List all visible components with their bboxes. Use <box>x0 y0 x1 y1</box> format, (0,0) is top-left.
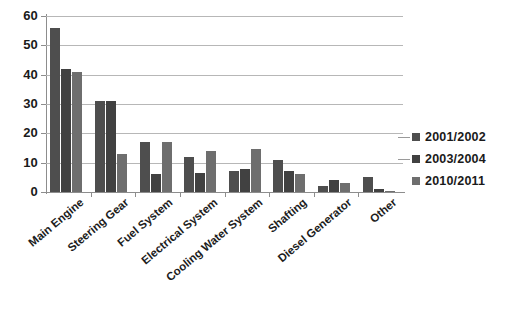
y-axis-tick-label: 10 <box>23 155 38 170</box>
legend-label: 2003/2004 <box>425 152 486 166</box>
x-axis-labels: Main EngineSteering GearFuel SystemElect… <box>46 196 406 316</box>
bar-group <box>358 16 403 192</box>
x-axis-tick <box>269 192 270 197</box>
bar <box>385 191 395 192</box>
bar <box>284 171 294 192</box>
bar <box>151 174 161 192</box>
x-axis-tick <box>358 192 359 197</box>
bar <box>273 160 283 192</box>
legend-leader-line <box>398 159 410 160</box>
legend-swatch <box>412 133 420 141</box>
bar <box>340 183 350 192</box>
x-axis-tick <box>91 192 92 197</box>
legend-swatch <box>412 177 420 185</box>
bar <box>251 149 261 192</box>
bar-group <box>135 16 180 192</box>
bar <box>117 154 127 192</box>
x-axis-tick <box>180 192 181 197</box>
bar <box>295 174 305 192</box>
bar-group <box>91 16 136 192</box>
bar <box>240 169 250 192</box>
x-axis-label: Electrical System <box>139 196 220 266</box>
bar <box>162 142 172 192</box>
y-axis-tick-label: 30 <box>23 96 38 111</box>
bar <box>374 189 384 192</box>
x-axis-line <box>46 192 405 193</box>
bar <box>184 157 194 192</box>
bar <box>195 173 205 192</box>
y-axis-tick-label: 40 <box>23 67 38 82</box>
bar <box>95 101 105 192</box>
x-axis-tick <box>135 192 136 197</box>
bar <box>50 28 60 192</box>
x-axis-label: Shafting <box>266 196 309 235</box>
legend-swatch <box>412 155 420 163</box>
bar <box>106 101 116 192</box>
legend-label: 2001/2002 <box>425 130 486 144</box>
bar <box>61 69 71 192</box>
bar-group <box>46 16 91 192</box>
x-axis-label: Other <box>367 196 398 225</box>
bar <box>229 171 239 192</box>
bar-group <box>225 16 270 192</box>
bar-group <box>269 16 314 192</box>
bar <box>206 151 216 192</box>
bar <box>140 142 150 192</box>
bar-group <box>314 16 359 192</box>
y-axis-tick-label: 50 <box>23 38 38 53</box>
y-axis-tick-label: 20 <box>23 126 38 141</box>
chart-legend: 2001/20022003/20042010/2011 <box>412 126 486 192</box>
y-axis-tick-label: 60 <box>23 8 38 23</box>
legend-item[interactable]: 2001/2002 <box>412 126 486 148</box>
y-axis-tick <box>41 192 46 193</box>
bar-chart: 0102030405060 Main EngineSteering GearFu… <box>0 0 525 321</box>
legend-item[interactable]: 2010/2011 <box>412 170 486 192</box>
bar <box>363 177 373 192</box>
bar <box>72 72 82 192</box>
x-axis-tick <box>314 192 315 197</box>
x-axis-tick <box>225 192 226 197</box>
bar <box>318 186 328 192</box>
plot-area: 0102030405060 <box>46 16 403 192</box>
legend-label: 2010/2011 <box>425 174 485 188</box>
bar-group <box>180 16 225 192</box>
y-axis-tick-label: 0 <box>31 184 38 199</box>
legend-leader-line <box>398 137 410 138</box>
bar <box>329 180 339 192</box>
legend-item[interactable]: 2003/2004 <box>412 148 486 170</box>
